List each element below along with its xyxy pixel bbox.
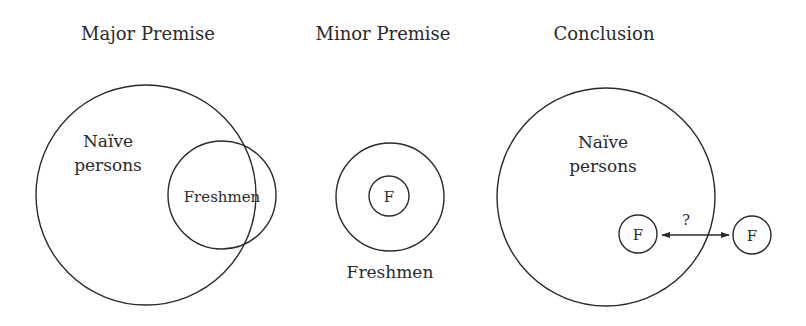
conclusion-title: Conclusion — [553, 23, 654, 44]
naive-persons-circle — [497, 88, 715, 306]
conclusion-panel: Conclusion Naïve persons F F ? — [497, 23, 771, 306]
freshmen-bottom-label: Freshmen — [347, 262, 434, 282]
freshmen-label: Freshmen — [184, 188, 261, 206]
naive-label-line1: Naïve — [83, 131, 133, 151]
naive-label-line1: Naïve — [578, 132, 628, 152]
naive-label-line2: persons — [569, 156, 637, 176]
question-mark: ? — [682, 211, 690, 229]
major-premise-title: Major Premise — [81, 23, 215, 44]
syllogism-diagram: Major Premise Naïve persons Freshmen Min… — [0, 0, 806, 326]
minor-premise-title: Minor Premise — [315, 23, 450, 44]
inside-f-marker: F — [633, 226, 643, 244]
minor-premise-panel: Minor Premise F Freshmen — [315, 23, 450, 282]
major-premise-panel: Major Premise Naïve persons Freshmen — [36, 23, 276, 305]
naive-label-line2: persons — [74, 155, 142, 175]
outside-f-marker: F — [747, 227, 757, 245]
f-marker: F — [384, 188, 394, 206]
